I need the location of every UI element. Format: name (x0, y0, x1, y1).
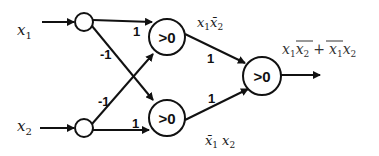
xor-network-diagram: x1 x2 1 -1 -1 1 >0 >0 x1x̄2 x̄1x2 1 1 >0… (0, 0, 379, 156)
weight-x1-h1: 1 (133, 24, 140, 39)
input-node-x2 (75, 119, 93, 137)
weight-x2-h1: -1 (98, 94, 110, 109)
weight-h2-out: 1 (208, 91, 215, 106)
hidden-node-2-label: >0 (158, 110, 175, 127)
output-expression: x1x2+x1x2 (282, 41, 356, 59)
output-node-label: >0 (253, 68, 270, 85)
svg-text:x2: x2 (17, 117, 32, 137)
input-label-x1: x1 (17, 21, 32, 41)
input-label-x2: x2 (17, 117, 32, 137)
input-node-x1 (75, 13, 93, 31)
edge-x1-h1 (93, 20, 152, 22)
weight-x2-h2: 1 (132, 116, 139, 131)
edge-h1-out (185, 34, 245, 63)
svg-text:x̄1x2: x̄1x2 (205, 133, 235, 150)
hidden-2-annotation: x̄1x2 (205, 133, 235, 150)
weight-h1-out: 1 (207, 51, 214, 66)
hidden-node-1-label: >0 (158, 29, 175, 46)
svg-text:x1: x1 (17, 21, 32, 41)
hidden-1-annotation: x1x̄2 (197, 15, 223, 32)
svg-text:x1x̄2: x1x̄2 (197, 15, 223, 32)
edge-h2-out (185, 89, 248, 120)
svg-text:x1x2+x1x2: x1x2+x1x2 (282, 41, 356, 59)
weight-x1-h2: -1 (100, 47, 112, 62)
